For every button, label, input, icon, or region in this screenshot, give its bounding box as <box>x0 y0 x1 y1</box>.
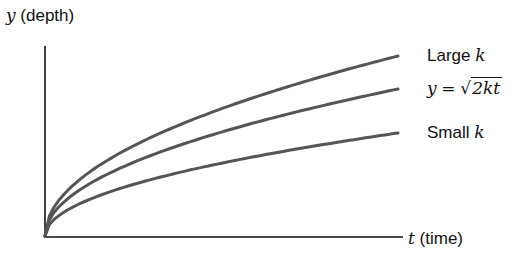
caption-cropped <box>20 254 280 263</box>
curve-0 <box>45 56 398 236</box>
k-variable: k <box>475 45 485 65</box>
x-axis-text: (time) <box>420 229 463 248</box>
curves <box>45 56 398 236</box>
x-axis-label: t (time) <box>408 230 463 247</box>
curve-2 <box>45 133 398 236</box>
sqrt-argument: 2kt <box>471 77 502 98</box>
y-axis-text: (depth) <box>20 6 74 25</box>
figure: y (depth) t (time) Large k y = √2kt Smal… <box>0 0 520 263</box>
legend-equation: y = √2kt <box>427 80 502 97</box>
y-axis-label: y (depth) <box>6 7 74 24</box>
radical-icon: √ <box>460 78 471 98</box>
t-variable: t <box>408 228 415 248</box>
eq-lhs: y <box>427 78 437 98</box>
legend-small-k: Small k <box>427 124 485 141</box>
eq-sign: = <box>441 78 455 98</box>
sqrt-expression: √2kt <box>460 80 502 97</box>
legend-large-text: Large <box>427 46 470 65</box>
k-variable: k <box>474 122 484 142</box>
y-variable: y <box>6 5 16 25</box>
legend-small-text: Small <box>427 123 470 142</box>
legend-large-k: Large k <box>427 47 486 64</box>
